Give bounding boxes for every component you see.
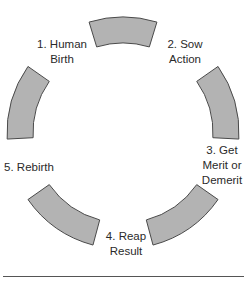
step-5-label: 5. Rebirth: [0, 160, 58, 175]
step-2-label: 2. Sow Action: [160, 37, 210, 67]
step-4-label-line2: Result: [98, 244, 154, 259]
step-4-label: 4. Reap Result: [98, 229, 154, 259]
step-2-label-line2: Action: [160, 52, 210, 67]
step-4-label-line1: 4. Reap: [98, 229, 154, 244]
step-2-label-line1: 2. Sow: [160, 37, 210, 52]
segment-left-upper: [7, 66, 49, 139]
step-3-label-line3: Demerit: [197, 173, 247, 188]
step-3-label-line1: 3. Get: [197, 143, 247, 158]
bottom-divider: [3, 276, 244, 277]
segment-top: [89, 17, 157, 47]
step-1-label-line1: 1. Human: [34, 37, 90, 52]
segment-right-upper: [197, 66, 239, 139]
segment-left-lower: [28, 185, 100, 245]
step-3-label: 3. Get Merit or Demerit: [197, 143, 247, 188]
step-5-label-line1: 5. Rebirth: [0, 160, 58, 175]
step-1-label-line2: Birth: [34, 52, 90, 67]
step-1-label: 1. Human Birth: [34, 37, 90, 67]
segment-right-lower: [146, 185, 218, 245]
step-3-label-line2: Merit or: [197, 158, 247, 173]
